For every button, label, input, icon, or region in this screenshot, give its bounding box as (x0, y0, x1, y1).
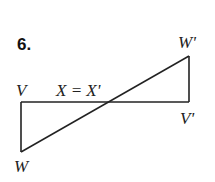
problem-number: 6. (17, 35, 31, 54)
triangle-figure: 6. V X = X' W' V' W (0, 0, 215, 182)
label-w-prime: W' (178, 33, 196, 52)
label-w: W (14, 157, 30, 176)
segment-w-wprime (21, 56, 189, 152)
diagram: 6. V X = X' W' V' W (0, 0, 215, 182)
label-x-equals-xprime: X = X' (55, 81, 101, 100)
label-v: V (16, 81, 29, 100)
label-v-prime: V' (180, 109, 194, 128)
